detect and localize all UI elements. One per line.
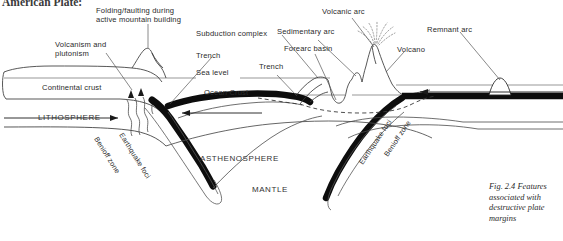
label-ocean-crust: Ocean Crust — [204, 88, 248, 97]
label-mantle: MANTLE — [252, 185, 288, 194]
label-forearc-basin: Forearc basin — [284, 44, 332, 53]
label-lithosphere: LITHOSPHERE — [38, 113, 101, 122]
mountain-belt — [132, 48, 166, 78]
figure-caption: Fig. 2.4 Features associated with destru… — [489, 182, 563, 224]
label-subduction-complex: Subduction complex — [196, 29, 267, 38]
label-remnant-arc: Remnant arc — [427, 25, 472, 34]
label-continental-crust: Continental crust — [42, 83, 102, 92]
label-volcanic-arc: Volcanic arc — [322, 7, 365, 16]
plutonism-arrows — [128, 88, 144, 98]
label-volcano: Volcano — [397, 45, 425, 54]
figure-page: American Plate: — [0, 0, 563, 241]
label-sedimentary-arc: Sedimentary arc — [277, 27, 335, 36]
plate-motion-arrow-left-basin — [182, 110, 262, 116]
label-trench-right: Trench — [259, 62, 283, 71]
ocean-lithosphere-base-left — [178, 102, 322, 188]
label-trench-left: Trench — [196, 51, 220, 60]
label-asthenosphere: ASTHENOSPHERE — [200, 154, 279, 163]
fold-fault-squiggles — [127, 97, 153, 136]
label-folding-faulting: Folding/faulting during active mountain … — [96, 6, 181, 25]
label-volcanism-plutonism: Volcanism and plutonism — [55, 40, 106, 59]
label-sea-level: Sea level — [196, 68, 229, 77]
